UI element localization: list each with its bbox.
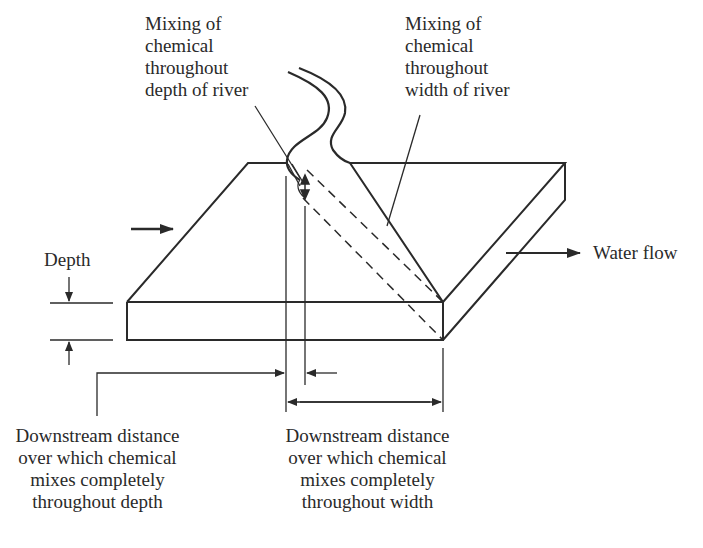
tributary-stream [287,68,350,180]
width-distance-label: Downstream distance over which chemical … [270,425,465,513]
plume-dashed-lines [303,170,443,340]
depth-label: Depth [44,249,90,271]
depth-distance-leader [97,373,337,416]
depth-mixing-label: Mixing of chemical throughout depth of r… [145,13,248,101]
depth-dimension [50,277,113,365]
water-flow-label: Water flow [593,242,677,264]
depth-distance-label: Downstream distance over which chemical … [0,425,195,513]
slab-top-face [127,163,565,302]
slab-front-face [127,302,443,340]
depth-mixing-leader [255,106,300,178]
stream-left-bank [287,72,329,180]
slab-side-face [443,163,565,340]
width-mixing-label: Mixing of chemical throughout width of r… [405,13,509,101]
width-mixing-leader [387,115,420,226]
river-slab [127,163,565,340]
